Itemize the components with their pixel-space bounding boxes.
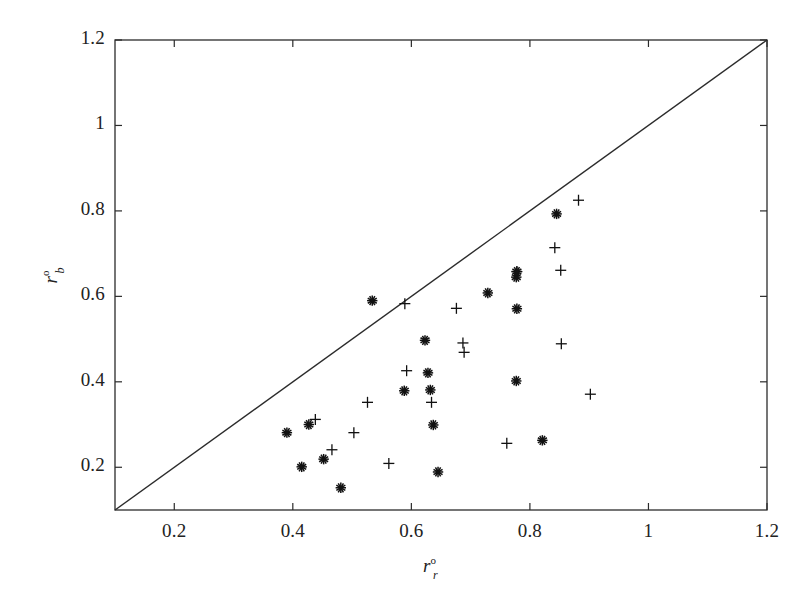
y-tick-label: 0.2	[49, 454, 105, 476]
plus-marker-series	[310, 195, 596, 469]
y-tick-label: 0.8	[49, 198, 105, 220]
chart-figure: 0.20.40.60.811.20.20.40.60.811.2 ror rob	[0, 0, 811, 604]
y-tick-label: 1.2	[49, 27, 105, 49]
y-tick-label: 0.4	[49, 369, 105, 391]
identity-reference-line	[115, 40, 767, 510]
x-tick-label: 1.2	[739, 520, 795, 542]
y-axis-title-subscript: b	[53, 268, 67, 274]
x-tick-label: 0.4	[265, 520, 321, 542]
asterisk-marker-series	[282, 209, 562, 493]
x-tick-label: 0.8	[502, 520, 558, 542]
x-axis-title: ror	[423, 555, 441, 581]
y-axis-title-superscript: o	[39, 271, 51, 277]
x-tick-label: 0.2	[146, 520, 202, 542]
y-axis-title-base: r	[40, 276, 61, 283]
y-tick-label: 1	[49, 112, 105, 134]
x-tick-label: 1	[620, 520, 676, 542]
x-tick-label: 0.6	[383, 520, 439, 542]
x-axis-title-subscript: r	[433, 568, 438, 582]
x-axis-title-superscript: o	[430, 554, 436, 566]
scatter-plot-canvas	[0, 0, 811, 604]
y-axis-title: rob	[40, 244, 66, 304]
